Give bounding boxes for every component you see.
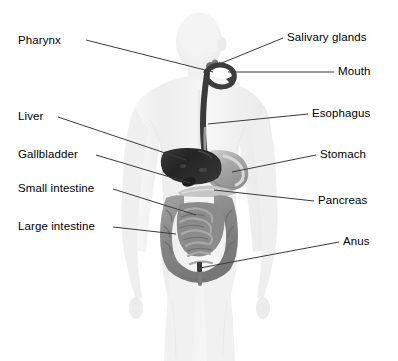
anatomy-illustration (0, 0, 398, 361)
digestive-system-diagram: PharynxLiverGallbladderSmall intestineLa… (0, 0, 398, 361)
label-salivary-glands: Salivary glands (287, 31, 366, 44)
label-esophagus: Esophagus (312, 107, 370, 120)
label-stomach: Stomach (320, 148, 366, 161)
label-pharynx: Pharynx (18, 34, 61, 47)
label-small-intestine: Small intestine (18, 182, 94, 195)
label-large-intestine: Large intestine (18, 220, 95, 233)
label-liver: Liver (18, 110, 43, 123)
label-anus: Anus (343, 235, 370, 248)
label-mouth: Mouth (338, 65, 370, 78)
label-gallbladder: Gallbladder (18, 148, 78, 161)
label-pancreas: Pancreas (318, 194, 367, 207)
